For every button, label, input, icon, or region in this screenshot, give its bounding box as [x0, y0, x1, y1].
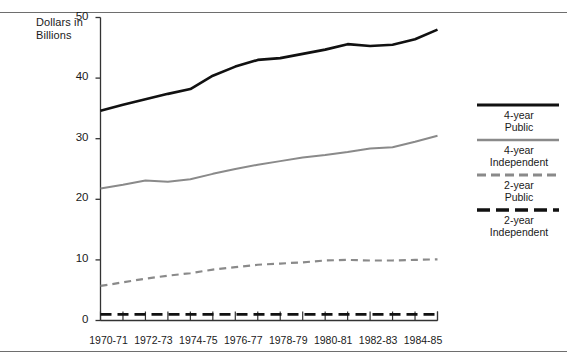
y-axis-tick-label: 0 [63, 313, 89, 325]
legend-label-line1: 4-year [504, 109, 534, 121]
legend-label: 4-yearPublic [476, 110, 562, 133]
legend-label: 4-yearIndependent [476, 145, 562, 168]
legend-label-line1: 2-year [504, 214, 534, 226]
y-axis-tick-label: 20 [63, 191, 89, 203]
bottom-horizontal-rule [0, 351, 567, 352]
legend-swatch-line [476, 101, 560, 109]
legend-label: 2-yearPublic [476, 180, 562, 203]
legend-label-line2: Public [476, 192, 562, 204]
x-axis-tick-label: 1984-85 [395, 334, 451, 346]
y-axis-tick-label: 30 [63, 131, 89, 143]
legend-label-line1: 2-year [504, 179, 534, 191]
chart-svg [0, 0, 470, 351]
series-line-0 [101, 30, 438, 111]
legend-entry: 4-yearIndependent [476, 136, 562, 168]
y-axis-tick-label: 40 [63, 70, 89, 82]
line-chart-plot-area [0, 0, 470, 351]
legend-label-line2: Independent [476, 227, 562, 239]
series-line-2 [101, 259, 438, 286]
y-axis-tick-label: 50 [63, 10, 89, 22]
legend-entry: 2-yearPublic [476, 171, 562, 203]
legend-swatch-line [476, 136, 560, 144]
series-line-1 [101, 136, 438, 189]
y-axis-tick-label: 10 [63, 252, 89, 264]
legend-swatch-line [476, 206, 560, 214]
legend-entry: 2-yearIndependent [476, 206, 562, 238]
chart-legend: 4-yearPublic4-yearIndependent2-yearPubli… [476, 101, 562, 241]
legend-label-line2: Independent [476, 157, 562, 169]
legend-label-line2: Public [476, 122, 562, 134]
legend-entry: 4-yearPublic [476, 101, 562, 133]
legend-label: 2-yearIndependent [476, 215, 562, 238]
legend-label-line1: 4-year [504, 144, 534, 156]
legend-swatch-line [476, 171, 560, 179]
